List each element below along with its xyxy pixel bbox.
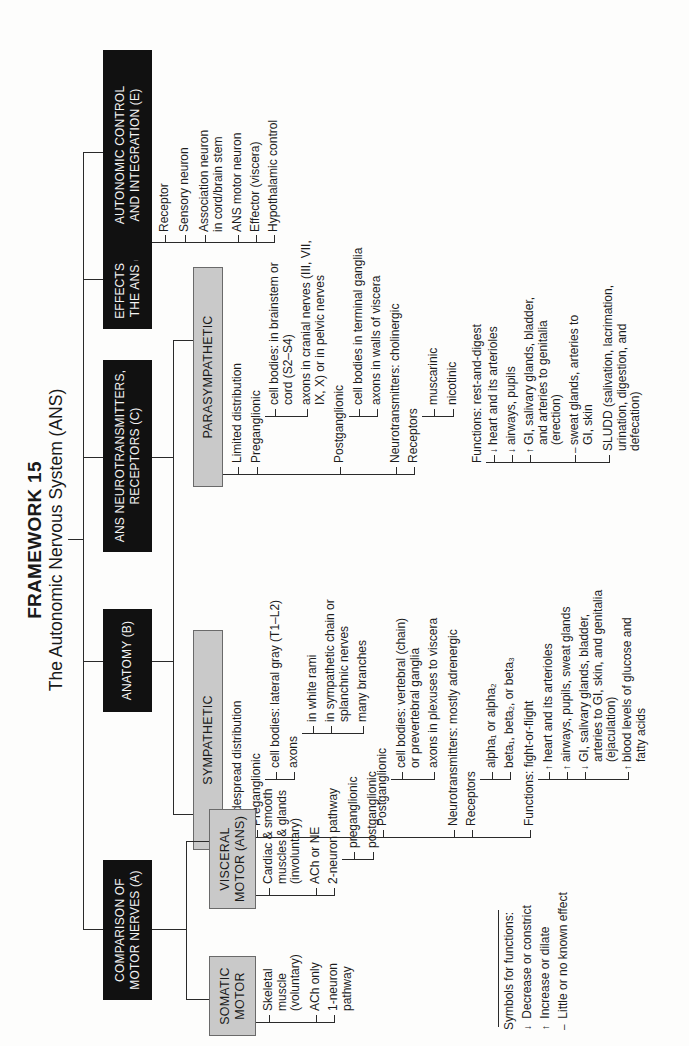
connector-a: [83, 929, 103, 930]
symp-tick: [257, 830, 258, 838]
visceral-tick: [316, 888, 317, 896]
symp-receptor-spine: [480, 779, 511, 780]
section-e-box: AUTONOMIC CONTROL AND INTEGRATION (E): [103, 50, 152, 260]
section-b-label: ANATOMY (B): [120, 621, 135, 701]
symp-tick: [434, 772, 435, 780]
e-tick: [185, 235, 186, 243]
para-tick: [494, 455, 495, 463]
symp-tick: [454, 830, 455, 838]
connector-e: [83, 152, 103, 153]
para-receptor-muscarinic: muscarinic: [427, 348, 441, 405]
symp-post-spine: [391, 779, 435, 780]
para-post-cell-bodies: cell bodies in terminal ganglia: [352, 248, 366, 405]
anatomy-down: [152, 661, 173, 662]
symp-tick: [510, 772, 511, 780]
e-item-hypothalamic-control: Hypothalamic control: [267, 120, 281, 232]
symp-post-axons: axons in plexuses to viscera: [427, 618, 441, 768]
symp-axons-spine: [302, 733, 364, 734]
para-function-sludd: SLUDD (salivation, lacrimation, urinatio…: [602, 285, 643, 451]
para-pre-cell-bodies: cell bodies: in brainstem or cord (S2–S4…: [268, 262, 295, 405]
e-item-effector: Effector (viscera): [249, 142, 263, 232]
legend-text: Little or no known effect: [556, 892, 570, 1019]
symp-link: [173, 662, 174, 815]
symp-tick: [294, 772, 295, 780]
para-tick: [434, 409, 435, 417]
legend-item: – Little or no known effect: [557, 892, 571, 1030]
symp-receptor-beta: beta₁, beta₂, or beta₃: [503, 657, 517, 768]
para-post-spine: [349, 416, 378, 417]
visceral-tick: [354, 852, 355, 860]
parasympathetic-label: PARASYMPATHETIC: [201, 315, 216, 438]
symp-axon-branches: many branches: [356, 640, 370, 722]
decrease-arrow-icon: ↓: [578, 762, 619, 770]
e-item-association-neuron: Association neuron in cord/brain stem: [198, 130, 225, 232]
c-down: [152, 457, 173, 458]
visceral-item: 2-neuron pathway: [327, 788, 341, 884]
function-text: airways, pupils: [504, 366, 518, 445]
section-e-label: AUTONOMIC CONTROL AND INTEGRATION (E): [113, 86, 143, 225]
section-c-label: ANS NEUROTRANSMITTERS, RECEPTORS (C): [113, 370, 143, 542]
function-text: sweat glands, arteries to GI, skin: [568, 315, 595, 445]
no-effect-dash-icon: –: [568, 445, 595, 453]
a-visceral-drop: [186, 841, 210, 842]
para-tick: [453, 409, 454, 417]
visceral-spine: [256, 895, 335, 896]
para-tick: [396, 467, 397, 475]
somatic-tick: [334, 1015, 335, 1023]
decrease-arrow-icon: ↓: [521, 1022, 535, 1030]
top-spine: [83, 153, 84, 930]
symp-tick: [492, 772, 493, 780]
title-block: FRAMEWORK 15 The Autonomic Nervous Syste…: [24, 380, 67, 700]
a-bar: [186, 842, 187, 1000]
para-func-spine: [486, 462, 610, 463]
somatic-item: Skeletal muscle (voluntary): [262, 954, 303, 1011]
para-drop: [173, 340, 193, 341]
symp-para-bar: [173, 458, 174, 662]
visceral-item: Cardiac & smooth muscles & glands (invol…: [262, 789, 303, 884]
para-tick: [575, 455, 576, 463]
e-tick: [165, 235, 166, 243]
somatic-tick: [316, 1015, 317, 1023]
symp-tick: [313, 726, 314, 734]
e-tick: [256, 235, 257, 243]
para-tick: [512, 455, 513, 463]
increase-arrow-icon: ↑: [621, 762, 648, 770]
e-item-sensory-neuron: Sensory neuron: [178, 147, 192, 232]
para-post-axons: axons in walls of viscera: [370, 276, 384, 405]
function-text: GI, salivary glands, bladder, and arteri…: [523, 297, 564, 445]
para-tick: [257, 467, 258, 475]
symp-post-cell-bodies: cell bodies: vertebral (chain) or prever…: [395, 618, 422, 768]
para-link: [173, 341, 174, 458]
para-preganglionic: Preganglionic: [250, 390, 264, 463]
e-tick: [274, 235, 275, 243]
symp-functions: Functions: fight-or-flight: [523, 701, 537, 826]
para-tick: [414, 467, 415, 475]
symp-tick: [331, 726, 332, 734]
a-down: [152, 929, 186, 930]
legend-item: ↑ Increase or dilate: [539, 927, 553, 1030]
para-function-item: ↓airways, pupils: [505, 366, 519, 453]
a-somatic-drop: [186, 999, 210, 1000]
para-pre-axons: axons in cranial nerves (III, VII, IX, X…: [300, 240, 327, 405]
visceral-subitem-postganglionic: postganglionic: [366, 771, 380, 848]
visceral-tick: [373, 852, 374, 860]
section-b-box: ANATOMY (B): [103, 609, 152, 712]
symp-neurotransmitters: Neurotransmitters: mostly adrenergic: [447, 629, 461, 826]
symp-receptor-alpha: alpha₁ or alpha₂: [485, 683, 499, 768]
para-postganglionic: Postganglionic: [333, 385, 347, 463]
symp-tick: [363, 726, 364, 734]
para-function-item: ↓heart and its arterioles: [487, 326, 501, 453]
somatic-item: 1-neuron pathway: [327, 963, 354, 1011]
framework-diagram: FRAMEWORK 15 The Autonomic Nervous Syste…: [0, 0, 689, 1046]
symp-pre-cell-bodies: cell bodies: lateral gray (T1–L2): [269, 600, 283, 768]
para-distribution: Limited distribution: [231, 363, 245, 463]
para-tick: [530, 455, 531, 463]
symp-function-item: ↓GI, salivary glands, bladder, arteries …: [578, 590, 619, 770]
symp-tick: [472, 830, 473, 838]
visceral-motor-label: VISCERAL MOTOR (ANS): [218, 816, 248, 902]
decrease-arrow-icon: ↓: [487, 445, 501, 453]
somatic-item: ACh only: [309, 962, 323, 1011]
increase-arrow-icon: ↑: [560, 762, 574, 770]
symp-tick: [628, 772, 629, 780]
decrease-arrow-icon: ↓: [505, 445, 519, 453]
